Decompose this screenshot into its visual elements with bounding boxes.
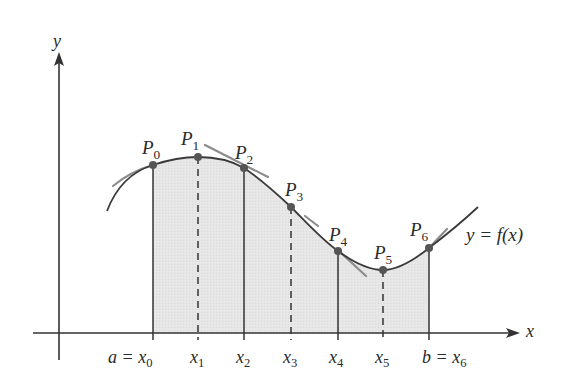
tick-x5: x5	[375, 348, 389, 370]
x-axis-label: x	[526, 322, 534, 340]
label-p0: P0	[142, 138, 160, 161]
point-p6	[425, 244, 433, 252]
label-p2: P2	[235, 143, 253, 166]
tick-x2: x2	[236, 348, 250, 370]
label-p6: P6	[410, 220, 428, 243]
tick-x0: a = x0	[108, 348, 152, 370]
point-p3	[287, 203, 295, 211]
point-p0	[149, 161, 157, 169]
tick-x3: x3	[283, 348, 297, 370]
curve-label: y = f(x)	[466, 225, 523, 244]
y-axis-label: y	[53, 32, 61, 50]
label-p1: P1	[181, 129, 199, 152]
label-p3: P3	[285, 180, 303, 203]
label-p5: P5	[374, 243, 392, 266]
tick-x1: x1	[190, 348, 204, 370]
tick-x6: b = x6	[422, 348, 466, 370]
point-p5	[379, 266, 387, 274]
diagram-canvas	[0, 0, 562, 389]
label-p4: P4	[329, 225, 347, 248]
point-p1	[194, 153, 202, 161]
tick-x4: x4	[329, 348, 343, 370]
simpsons-rule-diagram: y x P0 P1 P2 P3 P4 P5 P6 y = f(x) a = x0…	[0, 0, 562, 389]
